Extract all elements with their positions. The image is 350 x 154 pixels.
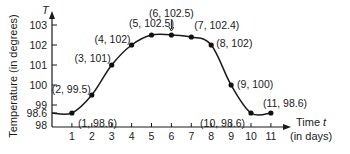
point-label: (3, 101)	[75, 52, 111, 64]
data-point-marker	[189, 34, 194, 39]
x-axis-title-line2: (in days)	[290, 130, 332, 142]
y-tick-label: 103	[29, 19, 47, 31]
point-labels: (1, 98.6)(2, 99.5)(3, 101)(4, 102)(5, 10…	[52, 7, 307, 129]
y-tick-label: 101	[29, 59, 47, 71]
x-tick-label: 4	[129, 130, 135, 142]
data-point-marker	[229, 82, 234, 87]
point-label: (9, 100)	[237, 78, 273, 90]
y-tick-label: 102	[29, 39, 47, 51]
x-tick-label: 8	[208, 130, 214, 142]
y-tick-label: 99	[35, 99, 47, 111]
y-tick-label: 100	[29, 79, 47, 91]
x-tick-label: 1	[69, 130, 75, 142]
x-tick-label: 7	[188, 130, 194, 142]
data-point-marker	[149, 32, 154, 37]
y-axis-title: Temperature (in degrees)	[7, 14, 19, 138]
x-tick-label: 2	[89, 130, 95, 142]
point-label: (10, 98.6)	[200, 117, 245, 129]
x-tick-label: 3	[109, 130, 115, 142]
x-tick-label: 10	[245, 130, 257, 142]
point-label: (4, 102)	[94, 33, 130, 45]
x-axis-title-line1: Time t	[296, 116, 327, 128]
point-label: (2, 99.5)	[52, 83, 91, 95]
y-axis-symbol: T	[42, 4, 50, 16]
x-tick-label: 5	[149, 130, 155, 142]
data-point-marker	[209, 42, 214, 47]
data-point-marker	[248, 110, 253, 115]
point-label: (11, 98.6)	[263, 97, 307, 109]
point-label: (6, 102.5)	[149, 7, 194, 19]
x-tick-label: 6	[168, 130, 174, 142]
y-tick-label: 98	[35, 119, 47, 131]
axes: 9898.6991001011021031234567891011	[27, 11, 291, 142]
y-axis-arrow-icon	[49, 11, 55, 19]
temperature-chart: 9898.6991001011021031234567891011 (1, 98…	[0, 0, 350, 154]
point-label: (7, 102.4)	[194, 19, 239, 31]
data-point-marker	[169, 32, 174, 37]
point-label: (1, 98.6)	[78, 117, 117, 129]
data-point-marker	[268, 110, 273, 115]
data-point-marker	[69, 110, 74, 115]
x-tick-label: 9	[228, 130, 234, 142]
x-tick-label: 11	[265, 130, 276, 142]
point-label: (8, 102)	[216, 37, 252, 49]
